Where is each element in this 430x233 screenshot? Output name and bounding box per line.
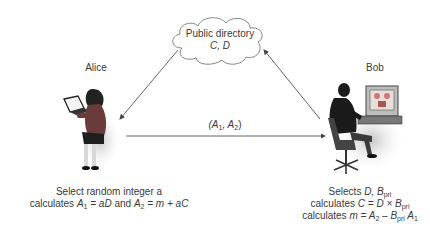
alice-caption-line1: Select random integer a (4, 186, 214, 198)
bob-caption: Selects D, Bpri calculates C = D × Bpri … (290, 186, 430, 222)
alice-caption: Select random integer a calculates A1 = … (4, 186, 214, 210)
bob-to-directory-arrow (264, 50, 320, 119)
public-directory-label: Public directory C, D (172, 28, 268, 52)
public-directory-title: Public directory (172, 28, 268, 40)
bob-caption-line2: calculates C = D × Bpri (290, 198, 430, 210)
bob-caption-line1: Selects D, Bpri (290, 186, 430, 198)
public-directory-contents: C, D (172, 40, 268, 52)
alice-caption-line2: calculates A1 = aD and A2 = m + aC (4, 198, 214, 210)
alice-name: Alice (76, 62, 116, 73)
message-label: (A1, A2) (195, 119, 255, 130)
bob-figure (328, 83, 406, 174)
alice-figure (64, 89, 122, 170)
directory-to-alice-arrow (120, 50, 178, 119)
bob-caption-line3: calculates m = A2 – Bpri A1 (290, 210, 430, 222)
bob-name: Bob (355, 62, 395, 73)
